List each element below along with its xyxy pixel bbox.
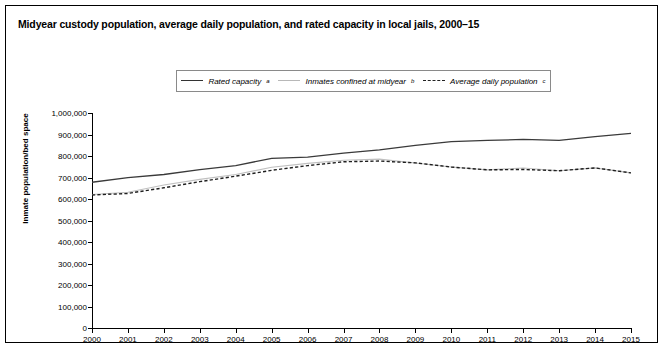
x-tick-mark — [631, 328, 632, 333]
x-tick-label: 2015 — [622, 335, 640, 344]
y-tick-label: 200,000 — [58, 281, 87, 290]
legend-label-rated-capacity: Rated capacity — [208, 77, 261, 86]
x-tick-mark — [92, 328, 93, 333]
x-tick-label: 2013 — [550, 335, 568, 344]
x-tick-label: 2012 — [514, 335, 532, 344]
y-axis-title: Inmate population/bed space — [21, 104, 30, 234]
chart-legend: Rated capacitya Inmates confined at midy… — [176, 70, 551, 92]
legend-note-a: a — [266, 78, 269, 84]
x-tick-mark — [128, 328, 129, 333]
y-tick-label: 600,000 — [58, 195, 87, 204]
line-inmates-confined — [92, 159, 631, 194]
x-tick-mark — [308, 328, 309, 333]
x-tick-label: 2000 — [83, 335, 101, 344]
x-tick-label: 2007 — [335, 335, 353, 344]
x-axis-line — [92, 328, 631, 329]
y-tick-label: 400,000 — [58, 238, 87, 247]
x-tick-mark — [415, 328, 416, 333]
figure-panel: Midyear custody population, average dail… — [5, 5, 658, 343]
x-tick-mark — [272, 328, 273, 333]
x-tick-label: 2002 — [155, 335, 173, 344]
legend-item-rated-capacity[interactable]: Rated capacitya — [181, 77, 269, 86]
x-tick-mark — [344, 328, 345, 333]
legend-note-b: b — [411, 78, 414, 84]
line-swatch-solid-light-icon — [278, 80, 300, 82]
x-tick-mark — [236, 328, 237, 333]
x-tick-label: 2014 — [586, 335, 604, 344]
line-average-daily-population — [92, 161, 631, 195]
legend-item-average-daily-population[interactable]: Average daily populationc — [423, 77, 545, 86]
x-tick-label: 2001 — [119, 335, 137, 344]
x-tick-label: 2011 — [479, 335, 496, 344]
legend-note-c: c — [543, 78, 546, 84]
line-swatch-solid-dark-icon — [181, 80, 203, 82]
y-tick-label: 900,000 — [58, 130, 87, 139]
series-lines — [92, 113, 631, 328]
y-tick-label: 300,000 — [58, 259, 87, 268]
y-tick-label: 1,000,000 — [51, 109, 87, 118]
x-tick-label: 2009 — [406, 335, 424, 344]
x-tick-mark — [523, 328, 524, 333]
x-tick-label: 2006 — [299, 335, 317, 344]
chart-title: Midyear custody population, average dail… — [18, 18, 479, 30]
line-swatch-dashed-icon — [423, 80, 445, 82]
legend-item-inmates-confined[interactable]: Inmates confined at midyearb — [278, 77, 414, 86]
x-tick-label: 2004 — [227, 335, 245, 344]
x-tick-mark — [595, 328, 596, 333]
y-tick-label: 100,000 — [58, 302, 87, 311]
x-tick-mark — [451, 328, 452, 333]
y-tick-label: 700,000 — [58, 173, 87, 182]
legend-label-inmates-confined: Inmates confined at midyear — [305, 77, 406, 86]
x-tick-mark — [200, 328, 201, 333]
x-tick-label: 2005 — [263, 335, 281, 344]
x-tick-mark — [379, 328, 380, 333]
x-tick-label: 2008 — [371, 335, 389, 344]
line-rated-capacity — [92, 133, 631, 182]
x-tick-mark — [559, 328, 560, 333]
y-tick-label: 800,000 — [58, 152, 87, 161]
x-tick-mark — [164, 328, 165, 333]
x-tick-label: 2010 — [442, 335, 460, 344]
y-tick-label: 500,000 — [58, 216, 87, 225]
legend-label-average-daily-population: Average daily population — [450, 77, 537, 86]
x-tick-mark — [487, 328, 488, 333]
plot-area: 1,000,000900,000800,000700,000600,000500… — [92, 113, 631, 328]
x-tick-label: 2003 — [191, 335, 209, 344]
y-tick-label: 0 — [83, 324, 87, 333]
